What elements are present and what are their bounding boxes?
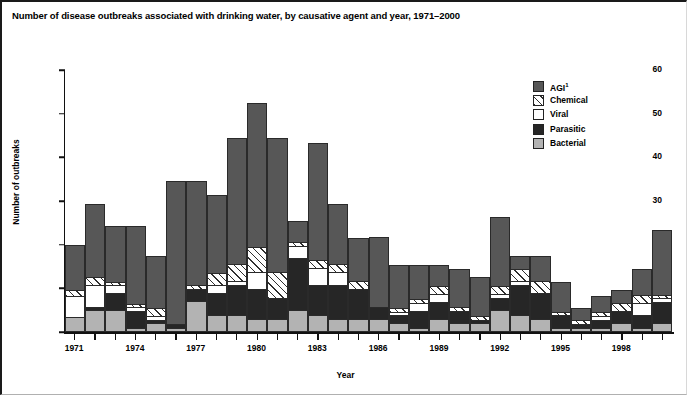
x-axis-tick (662, 334, 663, 340)
chart-title: Number of disease outbreaks associated w… (12, 10, 460, 21)
bar-1993 (510, 70, 530, 332)
bar-segment-agi (429, 265, 449, 287)
bar-segment-bacterial (470, 323, 490, 332)
x-axis-tick-label: 1974 (125, 343, 144, 353)
bar-segment-bacterial (308, 315, 328, 332)
x-axis-tick (621, 334, 622, 340)
bar-segment-agi (369, 237, 389, 307)
bar-segment-agi (227, 138, 247, 265)
bar-segment-bacterial (369, 319, 389, 332)
bar-1991 (470, 70, 490, 332)
x-axis-ticks (64, 334, 672, 342)
bar-segment-agi (591, 296, 611, 313)
bar-segment-agi (490, 217, 510, 287)
legend-swatch-agi-icon (533, 81, 544, 92)
bar-1987 (389, 70, 409, 332)
bar-2000 (652, 70, 672, 332)
bar-1985 (348, 70, 368, 332)
legend-swatch-viral-icon (533, 109, 544, 120)
bar-segment-agi (105, 226, 125, 283)
x-axis-tick (175, 334, 176, 340)
bar-segment-agi (207, 195, 227, 274)
legend-item-parasitic[interactable]: Parasitic (533, 124, 588, 135)
bar-segment-parasitic (551, 315, 571, 328)
x-axis-tick-label: 1989 (429, 343, 448, 353)
bar-segment-bacterial (389, 323, 409, 332)
x-axis-tick-label: 1986 (369, 343, 388, 353)
bar-segment-bacterial (227, 315, 247, 332)
bar-segment-agi (510, 256, 530, 269)
chart-legend: AGI1ChemicalViralParasiticBacterial (533, 81, 588, 149)
bar-segment-agi (348, 238, 368, 282)
bar-segment-bacterial (429, 319, 449, 332)
bar-1981 (267, 70, 287, 332)
x-axis-tick (540, 334, 541, 340)
bar-segment-parasitic (288, 258, 308, 310)
x-axis-tick-label: 1977 (186, 343, 205, 353)
bar-1984 (328, 70, 348, 332)
x-axis-tick (419, 334, 420, 340)
bar-segment-viral (65, 296, 85, 318)
bar-segment-bacterial (105, 310, 125, 332)
x-axis-tick (135, 334, 136, 340)
x-axis-tick (216, 334, 217, 340)
bar-segment-viral (632, 303, 652, 316)
bar-1986 (369, 70, 389, 332)
bar-segment-agi (652, 230, 672, 296)
bar-segment-viral (247, 272, 267, 289)
bar-segment-parasitic (227, 285, 247, 316)
bar-segment-parasitic (247, 289, 267, 320)
bar-1997 (591, 70, 611, 332)
bar-segment-parasitic (369, 307, 389, 320)
bar-segment-bacterial (530, 319, 550, 332)
legend-label-bacterial: Bacterial (550, 138, 586, 149)
bar-segment-bacterial (207, 315, 227, 332)
x-axis-tick (459, 334, 460, 340)
legend-footnote-marker: 1 (565, 82, 568, 88)
x-axis-tick-labels: 1971197419771980198319861989199219951998 (64, 343, 672, 357)
legend-item-viral[interactable]: Viral (533, 109, 588, 120)
bar-segment-agi (288, 221, 308, 243)
bar-segment-parasitic (308, 285, 328, 316)
y-axis-title-wrap: Number of outbreaks (10, 112, 24, 252)
bar-segment-agi (328, 204, 348, 265)
bar-segment-chemical (207, 273, 227, 286)
bar-1989 (429, 70, 449, 332)
legend-item-bacterial[interactable]: Bacterial (533, 138, 588, 149)
x-axis-tick-label: 1980 (247, 343, 266, 353)
bar-1973 (105, 70, 125, 332)
x-axis-tick (297, 334, 298, 340)
chart-figure: Number of disease outbreaks associated w… (0, 0, 687, 395)
bar-1971 (65, 70, 85, 332)
bar-segment-bacterial (247, 319, 267, 332)
x-axis-tick (500, 334, 501, 340)
bar-segment-bacterial (267, 319, 287, 332)
bar-segment-agi (611, 290, 631, 303)
bar-segment-parasitic (632, 315, 652, 328)
bar-segment-parasitic (449, 311, 469, 324)
legend-item-agi[interactable]: AGI1 (533, 81, 588, 92)
bar-segment-bacterial (288, 310, 308, 332)
bar-segment-bacterial (146, 323, 166, 332)
bar-segment-bacterial (611, 323, 631, 332)
bar-segment-bacterial (652, 323, 672, 332)
legend-item-chemical[interactable]: Chemical (533, 95, 588, 106)
bar-segment-chemical (267, 272, 287, 298)
x-axis-tick-label: 1983 (308, 343, 327, 353)
bar-segment-parasitic (186, 289, 206, 302)
x-axis-tick (155, 334, 156, 340)
x-axis-tick (338, 334, 339, 340)
x-axis-tick-label: 1998 (612, 343, 631, 353)
bar-segment-chemical (227, 264, 247, 281)
legend-swatch-bacterial-icon (533, 138, 544, 149)
x-axis-tick (378, 334, 379, 340)
x-axis-tick (398, 334, 399, 340)
bar-segment-parasitic (207, 293, 227, 315)
bar-segment-agi (166, 181, 186, 325)
x-axis-tick (115, 334, 116, 340)
bar-1976 (166, 70, 186, 332)
bar-segment-bacterial (490, 310, 510, 332)
bar-segment-parasitic (105, 293, 125, 310)
x-axis-tick (196, 334, 197, 340)
x-axis-tick (94, 334, 95, 340)
